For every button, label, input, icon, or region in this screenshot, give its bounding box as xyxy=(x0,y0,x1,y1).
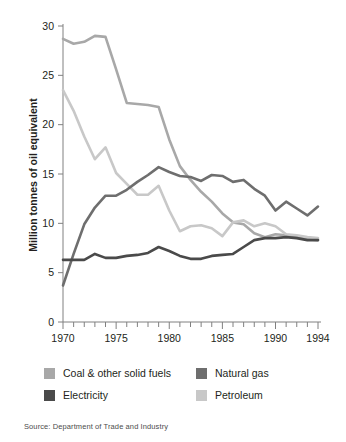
y-tick-label: 30 xyxy=(42,20,54,32)
x-tick-label: 1990 xyxy=(264,332,288,344)
legend-label-natural-gas: Natural gas xyxy=(215,367,269,379)
legend-item-natural-gas[interactable]: Natural gas xyxy=(196,366,269,380)
series-line-petroleum xyxy=(63,90,318,238)
x-tick-label: 1970 xyxy=(51,332,75,344)
series-line-coal-other-solid-fuels xyxy=(63,36,318,240)
legend-swatch-natural-gas xyxy=(196,368,207,379)
chart-series xyxy=(63,36,318,286)
legend-swatch-electricity xyxy=(44,390,55,401)
y-axis-title: Million tonnes of oil equivalent xyxy=(27,98,39,252)
chart-axes: 051015202530197019751980198519901994 xyxy=(42,20,330,344)
legend-swatch-petroleum xyxy=(196,390,207,401)
legend-label-coal: Coal & other solid fuels xyxy=(63,367,171,379)
series-line-electricity xyxy=(63,237,318,260)
line-chart-plot: 051015202530197019751980198519901994 Mil… xyxy=(0,0,346,360)
legend-item-coal[interactable]: Coal & other solid fuels xyxy=(44,366,171,380)
source-note: Source: Department of Trade and Industry xyxy=(24,422,168,431)
y-tick-label: 0 xyxy=(48,316,54,328)
y-tick-label: 25 xyxy=(42,69,54,81)
legend-label-petroleum: Petroleum xyxy=(215,389,263,401)
legend-label-electricity: Electricity xyxy=(63,389,108,401)
legend-item-petroleum[interactable]: Petroleum xyxy=(196,388,263,402)
x-tick-label: 1994 xyxy=(306,332,330,344)
y-tick-label: 20 xyxy=(42,118,54,130)
y-tick-label: 15 xyxy=(42,168,54,180)
legend-item-electricity[interactable]: Electricity xyxy=(44,388,108,402)
legend-swatch-coal xyxy=(44,368,55,379)
x-tick-label: 1985 xyxy=(211,332,235,344)
x-tick-label: 1980 xyxy=(158,332,182,344)
x-tick-label: 1975 xyxy=(104,332,128,344)
chart-legend: Coal & other solid fuels Natural gas Ele… xyxy=(44,364,336,410)
y-tick-label: 10 xyxy=(42,217,54,229)
y-tick-label: 5 xyxy=(48,266,54,278)
chart-figure: 051015202530197019751980198519901994 Mil… xyxy=(0,0,346,442)
